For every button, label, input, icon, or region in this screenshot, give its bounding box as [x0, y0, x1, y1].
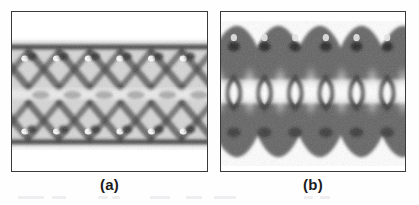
scan-artifact	[98, 196, 108, 199]
eye-diagram-panel-b	[220, 11, 406, 172]
scan-artifact	[186, 196, 202, 199]
panel-b-caption: (b)	[220, 176, 406, 193]
scan-artifact	[18, 196, 44, 199]
scan-artifact	[52, 196, 66, 199]
eye-diagram-plot-a	[12, 12, 207, 171]
scan-artifact	[150, 196, 170, 199]
eye-diagram-plot-b	[221, 12, 405, 171]
scan-artifact	[320, 196, 330, 199]
scan-artifact-row	[0, 194, 419, 203]
eye-diagram-panel-a	[11, 11, 208, 172]
scan-artifact	[304, 196, 313, 199]
eye-diagram-a-svg	[12, 12, 207, 171]
scan-artifact	[112, 196, 120, 199]
eye-diagram-b-svg	[221, 12, 405, 171]
panel-a-caption: (a)	[11, 176, 208, 193]
figure-root: (a) (b)	[0, 0, 419, 205]
scan-artifact	[214, 196, 236, 199]
